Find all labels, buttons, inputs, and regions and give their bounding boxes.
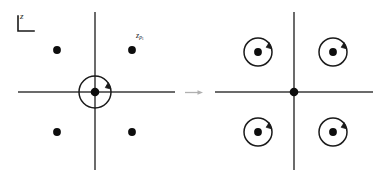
pole-label-subsub: 1 (142, 37, 144, 41)
contour-lower-right (319, 118, 347, 146)
pole-upper-right (128, 46, 136, 54)
figure-root: z zp1 (0, 0, 389, 182)
pole-lower-left (53, 128, 61, 136)
contour-deformation-diagram (0, 0, 389, 182)
right-pole-upper-right (329, 48, 337, 56)
right-origin-marker (290, 88, 299, 97)
contour-lower-left (244, 118, 272, 146)
transform-arrow-icon (185, 90, 203, 95)
right-panel (215, 12, 373, 170)
contour-upper-right (319, 38, 347, 66)
left-origin-marker (91, 88, 100, 97)
contour-upper-left (244, 38, 272, 66)
left-panel (18, 12, 175, 170)
right-pole-lower-left (254, 128, 262, 136)
plane-label: z (20, 12, 24, 21)
pole-label-sub: p1 (139, 34, 144, 40)
right-pole-lower-right (329, 128, 337, 136)
pole-lower-right (128, 128, 136, 136)
pole-upper-left (53, 46, 61, 54)
pole-label: zp1 (136, 32, 144, 42)
right-pole-upper-left (254, 48, 262, 56)
